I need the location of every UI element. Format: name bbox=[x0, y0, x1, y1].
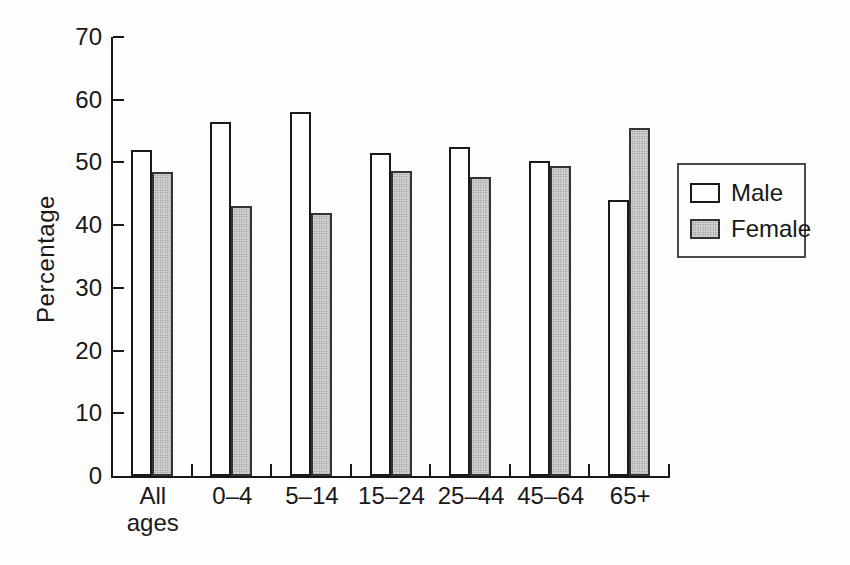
bar-male bbox=[370, 153, 391, 476]
x-tick bbox=[509, 464, 511, 476]
x-category-label: 25–44 bbox=[431, 482, 511, 509]
bar-female bbox=[152, 172, 173, 476]
legend: Male Female bbox=[677, 163, 806, 258]
legend-item-female: Female bbox=[690, 217, 804, 241]
legend-label-female: Female bbox=[731, 215, 811, 243]
y-tick-label: 70 bbox=[42, 23, 102, 51]
male-swatch-icon bbox=[690, 183, 720, 203]
bar-male bbox=[131, 150, 152, 476]
legend-label-male: Male bbox=[731, 179, 783, 207]
y-tick bbox=[113, 287, 124, 289]
x-category-label: 65+ bbox=[590, 482, 670, 509]
y-tick bbox=[113, 412, 124, 414]
y-tick bbox=[113, 36, 124, 38]
bar-male bbox=[529, 161, 550, 476]
y-tick bbox=[113, 161, 124, 163]
bar-male bbox=[210, 122, 231, 476]
x-category-label: 5–14 bbox=[272, 482, 352, 509]
x-tick bbox=[191, 464, 193, 476]
x-category-label: 45–64 bbox=[511, 482, 591, 509]
x-category-label: All ages bbox=[113, 482, 193, 536]
y-tick-label: 30 bbox=[42, 274, 102, 302]
y-tick-label: 0 bbox=[42, 462, 102, 490]
y-tick bbox=[113, 99, 124, 101]
legend-item-male: Male bbox=[690, 181, 804, 205]
bar-female bbox=[391, 171, 412, 476]
x-category-label: 0–4 bbox=[193, 482, 273, 509]
x-tick bbox=[588, 464, 590, 476]
bar-female bbox=[550, 166, 571, 476]
y-tick-label: 10 bbox=[42, 399, 102, 427]
bar-female bbox=[231, 206, 252, 476]
x-tick bbox=[429, 464, 431, 476]
x-tick bbox=[270, 464, 272, 476]
plot-area: 010203040506070All ages0–45–1415–2425–44… bbox=[111, 37, 670, 478]
bar-female bbox=[311, 213, 332, 476]
bar-male bbox=[608, 200, 629, 476]
bar-male bbox=[290, 112, 311, 476]
x-tick bbox=[350, 464, 352, 476]
bar-male bbox=[449, 147, 470, 476]
y-tick bbox=[113, 350, 124, 352]
x-category-label: 15–24 bbox=[352, 482, 432, 509]
y-tick-label: 60 bbox=[42, 86, 102, 114]
female-swatch-icon bbox=[690, 219, 720, 239]
y-tick-label: 50 bbox=[42, 148, 102, 176]
y-tick-label: 40 bbox=[42, 211, 102, 239]
bar-female bbox=[629, 128, 650, 476]
bar-chart: Percentage 010203040506070All ages0–45–1… bbox=[0, 0, 850, 565]
y-tick-label: 20 bbox=[42, 337, 102, 365]
y-tick bbox=[113, 224, 124, 226]
x-tick bbox=[668, 464, 670, 476]
bar-female bbox=[470, 177, 491, 476]
